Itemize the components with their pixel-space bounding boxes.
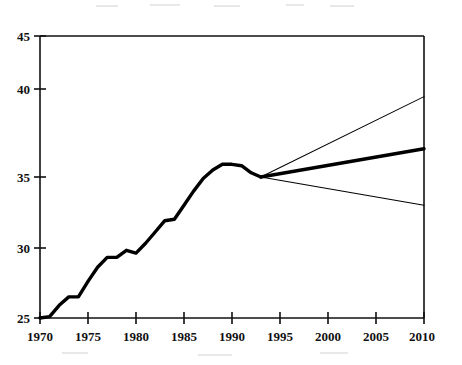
y-tick-label-30: 30 (17, 241, 30, 256)
x-tick-label-1995: 1995 (267, 329, 294, 344)
x-tick-label-1970: 1970 (27, 329, 53, 344)
chart-container: 45 40 35 30 25 1970 1975 1980 1985 1990 … (0, 0, 462, 365)
y-tick-label-45: 45 (17, 29, 31, 44)
series-projection-central (261, 149, 424, 177)
x-tick-label-1975: 1975 (75, 329, 102, 344)
line-chart: 45 40 35 30 25 1970 1975 1980 1985 1990 … (0, 0, 462, 365)
series-projection-high (261, 97, 424, 177)
scan-artifacts (62, 4, 354, 356)
x-tick-label-1980: 1980 (123, 329, 149, 344)
plot-frame (40, 36, 424, 318)
y-tick-label-25: 25 (17, 311, 31, 326)
x-tick-label-2010: 2010 (409, 329, 435, 344)
x-axis-tick-labels: 1970 1975 1980 1985 1990 1995 2000 2005 … (27, 329, 435, 344)
x-tick-label-1985: 1985 (171, 329, 198, 344)
y-axis-tick-labels: 45 40 35 30 25 (17, 29, 31, 326)
x-tick-label-2005: 2005 (363, 329, 390, 344)
series-historical (40, 164, 261, 318)
series-projection-low (261, 177, 424, 205)
y-tick-label-40: 40 (17, 82, 30, 97)
y-tick-label-35: 35 (17, 170, 31, 185)
x-tick-label-2000: 2000 (315, 329, 341, 344)
data-series-group (40, 97, 424, 318)
x-tick-label-1990: 1990 (219, 329, 245, 344)
